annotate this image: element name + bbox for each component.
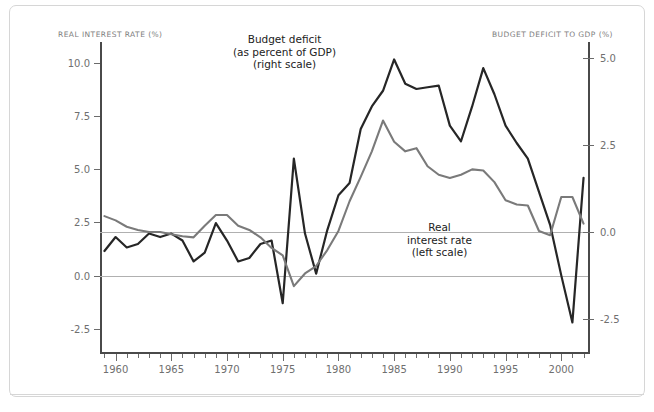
chart-plot-area: REAL INTEREST RATE (%) BUDGET DEFICIT TO… [0,0,654,412]
line-budget-deficit [104,59,583,322]
line-real-interest-rate [104,121,583,287]
series-lines [0,0,654,412]
